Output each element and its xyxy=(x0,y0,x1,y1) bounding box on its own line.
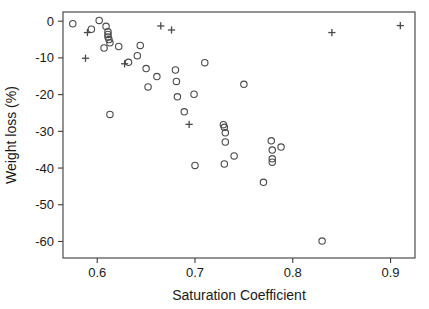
x-tick-label: 0.9 xyxy=(382,265,400,280)
x-axis-ticks: 0.60.70.80.9 xyxy=(88,258,399,280)
series-circle-series xyxy=(70,17,326,244)
data-points-layer xyxy=(70,17,404,244)
data-point-circle xyxy=(181,109,187,115)
y-tick-label: -50 xyxy=(35,197,54,212)
data-point-circle xyxy=(137,42,143,48)
data-point-circle xyxy=(191,91,197,97)
data-point-circle xyxy=(173,78,179,84)
data-point-circle xyxy=(192,162,198,168)
data-point-circle xyxy=(116,43,122,49)
x-tick-label: 0.8 xyxy=(284,265,302,280)
data-point-circle xyxy=(172,67,178,73)
data-point-circle xyxy=(241,81,247,87)
data-point-circle xyxy=(107,111,113,117)
data-point-circle xyxy=(319,238,325,244)
plot-border xyxy=(63,12,415,258)
x-tick-label: 0.7 xyxy=(186,265,204,280)
data-point-circle xyxy=(269,147,275,153)
x-tick-label: 0.6 xyxy=(88,265,106,280)
data-point-circle xyxy=(222,139,228,145)
y-tick-label: -30 xyxy=(35,124,54,139)
x-axis-title: Saturation Coefficient xyxy=(172,287,306,303)
plot-canvas: 0.60.70.80.9 0-10-20-30-40-50-60 Saturat… xyxy=(0,0,429,309)
plot-frame xyxy=(63,12,415,258)
y-tick-label: -40 xyxy=(35,161,54,176)
data-point-circle xyxy=(145,84,151,90)
y-tick-label: 0 xyxy=(47,14,54,29)
y-tick-label: -10 xyxy=(35,50,54,65)
series-plus-series xyxy=(82,22,404,128)
data-point-circle xyxy=(134,52,140,58)
data-point-circle xyxy=(268,138,274,144)
y-tick-label: -60 xyxy=(35,234,54,249)
data-point-circle xyxy=(221,161,227,167)
scatter-plot-figure: 0.60.70.80.9 0-10-20-30-40-50-60 Saturat… xyxy=(0,0,429,309)
data-point-circle xyxy=(125,59,131,65)
data-point-circle xyxy=(174,94,180,100)
data-point-circle xyxy=(202,59,208,65)
data-point-circle xyxy=(231,153,237,159)
data-point-circle xyxy=(88,26,94,32)
y-tick-label: -20 xyxy=(35,87,54,102)
y-axis-title: Weight loss (%) xyxy=(3,86,19,184)
data-point-circle xyxy=(101,45,107,51)
data-point-circle xyxy=(96,17,102,23)
data-point-circle xyxy=(260,179,266,185)
data-point-circle xyxy=(70,21,76,27)
data-point-circle xyxy=(278,144,284,150)
data-point-circle xyxy=(143,65,149,71)
data-point-circle xyxy=(154,73,160,79)
y-axis-ticks: 0-10-20-30-40-50-60 xyxy=(35,14,63,249)
